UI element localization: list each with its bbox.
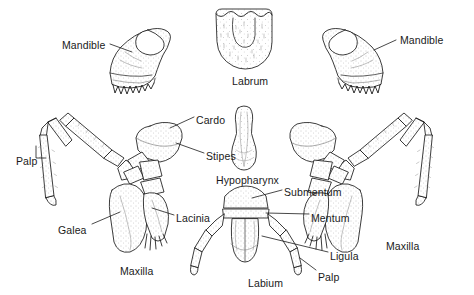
label-cardo: Cardo — [196, 114, 225, 126]
maxilla-right-drawing — [290, 113, 434, 252]
mouthparts-figure: MandibleLabrumMandibleCardoStipesPalpHyp… — [0, 0, 474, 295]
label-stipes: Stipes — [206, 150, 236, 162]
label-labrum: Labrum — [232, 75, 268, 87]
labrum-drawing — [216, 9, 272, 69]
label-mandible-right: Mandible — [400, 34, 443, 46]
label-mandible-left: Mandible — [62, 39, 105, 51]
labium-drawing — [190, 186, 301, 275]
label-hypopharynx: Hypopharynx — [216, 174, 279, 186]
label-submentum: Submentum — [284, 186, 342, 198]
label-maxilla-right: Maxilla — [386, 240, 419, 252]
label-ligula: Ligula — [330, 250, 359, 262]
label-galea: Galea — [58, 224, 87, 236]
label-palp-left: Palp — [16, 155, 37, 167]
label-mentum: Mentum — [311, 212, 350, 224]
mandible-right-drawing — [323, 29, 383, 95]
label-labium: Labium — [248, 277, 283, 289]
mandible-left-drawing — [110, 29, 170, 95]
label-palp-right: Palp — [318, 271, 339, 283]
label-lacinia: Lacinia — [176, 212, 210, 224]
label-maxilla-left: Maxilla — [120, 265, 153, 277]
